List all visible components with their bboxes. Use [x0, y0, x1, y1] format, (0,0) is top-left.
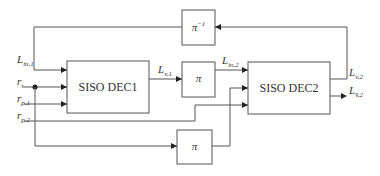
deinterleaver-label: π−1 [182, 21, 215, 33]
signal-label-lvbar2: Lv̄,2 [349, 85, 363, 99]
signal-label-rp1: rp,1 [17, 93, 30, 107]
arrow-rp2 [242, 102, 248, 108]
interleaver-bottom-label: π [177, 141, 212, 152]
signal-label-rp2: rp,2 [17, 110, 30, 124]
signal-label-lv2: Lv,2 [349, 67, 363, 81]
arrow-rp1 [61, 101, 67, 107]
arrow-lin2 [242, 67, 248, 73]
arrow-into-deinterleaver [215, 24, 221, 30]
arrow-lvbar2 [341, 93, 347, 99]
siso-dec1-label: SISO DEC1 [67, 81, 149, 93]
wire-interleaved-rs [212, 88, 248, 146]
signal-label-lin1: Lin,1 [17, 54, 34, 68]
signal-label-lin2: Lin,2 [222, 55, 239, 69]
signal-label-rs: rs [17, 76, 24, 90]
siso-dec2-label: SISO DEC2 [248, 82, 330, 94]
signal-label-lv1: Lv,1 [158, 64, 172, 78]
interleaver-mid-label: π [182, 73, 215, 84]
arrow-lin1 [61, 67, 67, 73]
